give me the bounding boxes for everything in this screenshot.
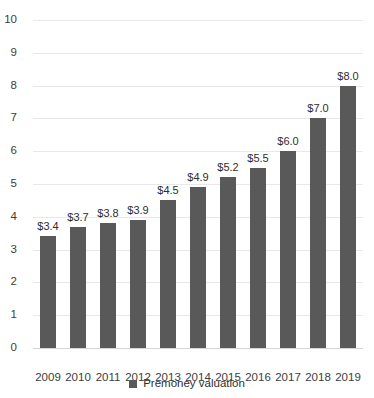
bar-value-label: $4.5	[149, 185, 187, 196]
y-axis-tick-label: 2	[0, 277, 17, 289]
bar-slot: $3.4	[33, 20, 63, 348]
bar[interactable]	[190, 187, 206, 348]
bar-value-label: $5.5	[239, 153, 277, 164]
bar[interactable]	[310, 118, 326, 348]
y-axis-tick-label: 8	[0, 80, 17, 92]
legend-swatch-icon	[129, 380, 137, 388]
legend-label: Premoney valuation	[143, 378, 245, 390]
bar[interactable]	[280, 151, 296, 348]
bar[interactable]	[220, 177, 236, 348]
bar-slot: $8.0	[333, 20, 363, 348]
bar-value-label: $3.9	[119, 205, 157, 216]
y-axis-tick-label: 9	[0, 47, 17, 59]
y-axis-tick-label: 6	[0, 145, 17, 157]
bar-slot: $5.2	[213, 20, 243, 348]
y-axis-tick-label: 10	[0, 14, 17, 26]
y-axis-tick-label: 3	[0, 244, 17, 256]
bar-slot: $4.5	[153, 20, 183, 348]
bar-slot: $3.7	[63, 20, 93, 348]
bar-value-label: $4.9	[179, 172, 217, 183]
bar-slot: $7.0	[303, 20, 333, 348]
bar[interactable]	[100, 223, 116, 348]
bar-value-label: $8.0	[329, 71, 367, 82]
bar[interactable]	[250, 168, 266, 348]
bar-value-label: $6.0	[269, 136, 307, 147]
plot-area: 012345678910 $3.4$3.7$3.8$3.9$4.5$4.9$5.…	[33, 20, 363, 348]
y-axis-tick-label: 4	[0, 211, 17, 223]
bar-slot: $6.0	[273, 20, 303, 348]
chart-legend: Premoney valuation	[0, 378, 374, 390]
bar-chart: 012345678910 $3.4$3.7$3.8$3.9$4.5$4.9$5.…	[0, 0, 374, 398]
y-axis-tick-label: 7	[0, 113, 17, 125]
bar-slot: $4.9	[183, 20, 213, 348]
bar-value-label: $3.4	[29, 221, 67, 232]
bar-value-label: $5.2	[209, 162, 247, 173]
gridline	[33, 348, 363, 349]
bar-slot: $5.5	[243, 20, 273, 348]
bar[interactable]	[70, 227, 86, 348]
bar-value-label: $7.0	[299, 103, 337, 114]
bar-slot: $3.8	[93, 20, 123, 348]
y-axis-tick-label: 1	[0, 309, 17, 321]
y-axis-tick-label: 5	[0, 178, 17, 190]
bar[interactable]	[130, 220, 146, 348]
bar[interactable]	[160, 200, 176, 348]
bars-layer: $3.4$3.7$3.8$3.9$4.5$4.9$5.2$5.5$6.0$7.0…	[33, 20, 363, 348]
y-axis-tick-label: 0	[0, 342, 17, 354]
bar-slot: $3.9	[123, 20, 153, 348]
bar[interactable]	[40, 236, 56, 348]
bar[interactable]	[340, 86, 356, 348]
